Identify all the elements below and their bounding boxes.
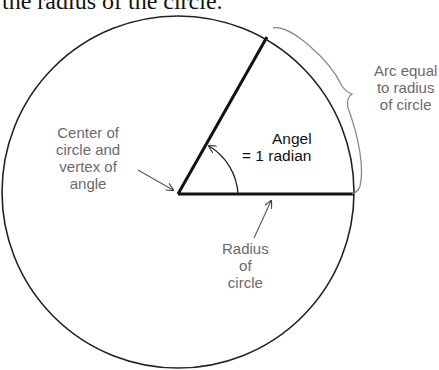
arc-label: Arc equal to radius of circle bbox=[374, 62, 437, 113]
angle-arc-arrow bbox=[209, 146, 238, 194]
radius-label-line: of bbox=[222, 257, 269, 274]
arc-label-line: Arc equal bbox=[374, 62, 437, 79]
center-pointer-arrow bbox=[138, 170, 173, 190]
center-label-line: circle and bbox=[56, 141, 120, 158]
radius-pointer-arrow bbox=[254, 201, 271, 238]
radius-label-line: circle bbox=[222, 274, 269, 291]
radius-label: Radius of circle bbox=[222, 240, 269, 291]
center-label-line: vertex of bbox=[56, 158, 120, 175]
center-label-line: Center of bbox=[56, 124, 120, 141]
radius-line-angled bbox=[178, 37, 267, 194]
radius-label-line: Radius bbox=[222, 240, 269, 257]
angle-label: Angel = 1 radian bbox=[262, 130, 312, 164]
center-label: Center of circle and vertex of angle bbox=[56, 124, 120, 192]
angle-label-line: Angel bbox=[262, 130, 312, 147]
angle-label-line: = 1 radian bbox=[242, 147, 312, 164]
arc-label-line: of circle bbox=[374, 96, 437, 113]
center-label-line: angle bbox=[56, 175, 120, 192]
arc-label-line: to radius bbox=[374, 79, 437, 96]
